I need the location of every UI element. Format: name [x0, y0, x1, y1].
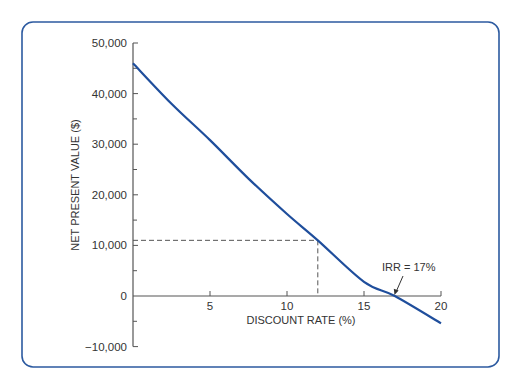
y-axis-label: NET PRESENT VALUE ($) [69, 119, 81, 250]
x-tick-label: 20 [435, 300, 448, 312]
y-tick-label: 50,000 [92, 37, 127, 49]
y-tick-label: −10,000 [85, 341, 127, 353]
npv-chart: −10,000010,00020,00030,00040,00050,00051… [0, 0, 521, 383]
x-axis-label: DISCOUNT RATE (%) [247, 314, 356, 326]
y-tick-label: 10,000 [92, 239, 127, 251]
irr-label: IRR = 17% [382, 261, 436, 273]
y-tick-label: 40,000 [92, 88, 127, 100]
x-tick-label: 5 [207, 300, 213, 312]
y-tick-label: 30,000 [92, 138, 127, 150]
x-tick-label: 15 [358, 300, 371, 312]
y-tick-label: 20,000 [92, 189, 127, 201]
y-tick-label: 0 [121, 290, 127, 302]
x-tick-label: 10 [281, 300, 294, 312]
